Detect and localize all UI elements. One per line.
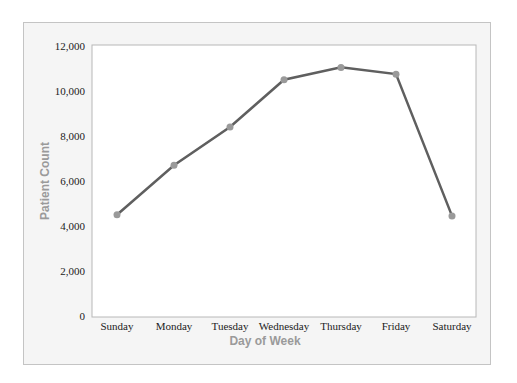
x-tick-label: Monday xyxy=(156,320,193,332)
data-point xyxy=(114,211,121,218)
x-tick-label: Friday xyxy=(382,320,411,332)
data-point xyxy=(338,64,345,71)
y-tick-label: 4,000 xyxy=(60,220,85,232)
x-tick-label: Saturday xyxy=(432,320,472,332)
x-axis-title: Day of Week xyxy=(229,334,300,348)
x-tick-label: Tuesday xyxy=(212,320,249,332)
plot-area xyxy=(92,45,476,317)
y-tick-label: 12,000 xyxy=(55,40,86,52)
y-axis-title: Patient Count xyxy=(38,142,52,220)
y-axis-ticks: 02,0004,0006,0008,00010,00012,000 xyxy=(55,40,86,322)
x-tick-label: Thursday xyxy=(320,320,362,332)
y-tick-label: 0 xyxy=(80,310,86,322)
x-tick-label: Sunday xyxy=(101,320,135,332)
data-point xyxy=(449,212,456,219)
line-chart: 02,0004,0006,0008,00010,00012,000 Sunday… xyxy=(0,0,517,383)
y-tick-label: 8,000 xyxy=(60,130,85,142)
y-tick-label: 6,000 xyxy=(60,175,85,187)
x-tick-label: Wednesday xyxy=(259,320,310,332)
x-axis-ticks: SundayMondayTuesdayWednesdayThursdayFrid… xyxy=(101,320,473,332)
data-point xyxy=(281,76,288,83)
y-tick-label: 10,000 xyxy=(55,85,86,97)
data-point xyxy=(171,162,178,169)
data-point xyxy=(393,71,400,78)
y-tick-label: 2,000 xyxy=(60,265,85,277)
data-point xyxy=(227,124,234,131)
